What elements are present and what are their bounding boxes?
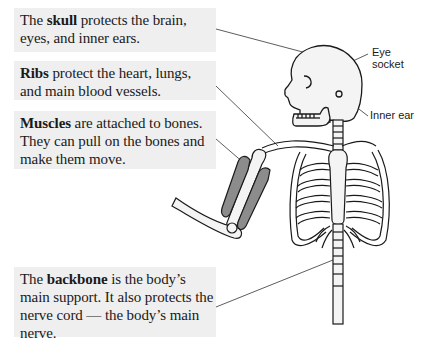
skull-icon: [285, 46, 362, 127]
callout-skull-term: skull: [47, 12, 77, 28]
callout-backbone: The backbone is the body’s main support.…: [14, 267, 216, 337]
ribcage-icon: [262, 141, 389, 248]
callout-ribs-term: Ribs: [20, 65, 49, 81]
callout-muscles-term: Muscles: [20, 115, 71, 131]
backbone-icon: [333, 224, 343, 324]
callout-skull-prefix: The: [20, 12, 47, 28]
sternum-icon: [329, 150, 347, 225]
leader-line-skull: [216, 29, 314, 55]
leader-line-backbone: [216, 260, 333, 307]
neck-vertebrae: [333, 120, 343, 150]
label-eye-socket-line2: socket: [372, 58, 404, 70]
label-inner-ear: Inner ear: [370, 109, 414, 121]
leader-line-ribs: [216, 86, 278, 146]
callout-muscles: Muscles are attached to bones. They can …: [14, 111, 216, 169]
label-eye-socket: Eye socket: [372, 46, 404, 70]
callout-ribs: Ribs protect the heart, lungs, and main …: [14, 61, 216, 100]
callout-backbone-prefix: The: [20, 271, 47, 287]
label-eye-socket-line1: Eye: [372, 46, 404, 58]
callout-backbone-term: backbone: [47, 271, 108, 287]
callout-skull: The skull protects the brain, eyes, and …: [14, 8, 216, 52]
